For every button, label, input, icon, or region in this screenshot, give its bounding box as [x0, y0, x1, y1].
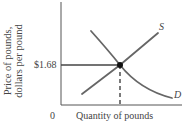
supply-label: S: [159, 21, 164, 32]
origin-label: 0: [50, 110, 55, 121]
y-tick-price: $1.68: [34, 59, 57, 70]
x-axis-label: Quantity of pounds: [76, 110, 153, 121]
demand-label: D: [174, 89, 181, 100]
equilibrium-point: [117, 62, 123, 68]
